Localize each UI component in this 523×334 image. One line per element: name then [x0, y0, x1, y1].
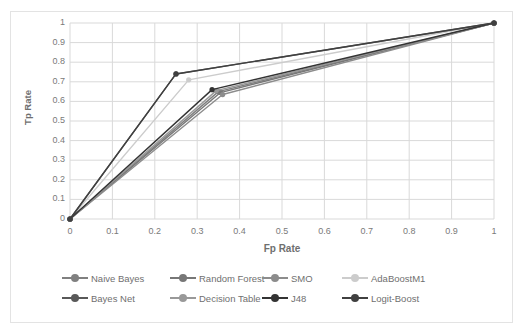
legend-marker-icon: [262, 293, 288, 303]
data-point-marker: [173, 71, 178, 76]
data-point-marker: [209, 87, 214, 92]
legend-marker-icon: [342, 273, 368, 283]
y-tick-label: 0.3: [43, 154, 65, 164]
x-tick-label: 0: [58, 226, 82, 236]
y-tick-label: 0.7: [43, 76, 65, 86]
y-tick-label: 0.1: [43, 193, 65, 203]
legend-item-decision-table[interactable]: Decision Table: [170, 293, 261, 304]
legend-item-j48[interactable]: J48: [262, 293, 306, 304]
legend-item-bayes-net[interactable]: Bayes Net: [62, 293, 135, 304]
legend-row: Naive BayesRandom ForestSMOAdaBoostM1: [62, 268, 482, 288]
y-axis-title: Tp Rate: [22, 78, 33, 138]
x-tick-label: 0.2: [143, 226, 167, 236]
y-tick-label: 0.5: [43, 115, 65, 125]
legend-item-smo[interactable]: SMO: [262, 273, 313, 284]
x-tick-label: 0.3: [185, 226, 209, 236]
data-point-marker: [491, 20, 496, 25]
x-tick-label: 0.7: [355, 226, 379, 236]
x-tick-label: 0.5: [270, 226, 294, 236]
legend-marker-icon: [170, 273, 196, 283]
legend-row: Bayes NetDecision TableJ48Logit-Boost: [62, 288, 482, 308]
x-tick-label: 0.6: [312, 226, 336, 236]
legend-item-label: Logit-Boost: [371, 293, 419, 304]
x-tick-label: 0.8: [397, 226, 421, 236]
x-axis-title: Fp Rate: [70, 243, 494, 254]
grid-lines: [70, 23, 494, 219]
legend-marker-icon: [170, 293, 196, 303]
y-tick-label: 0.6: [43, 95, 65, 105]
x-tick-label: 0.9: [440, 226, 464, 236]
legend-item-label: Naive Bayes: [91, 273, 144, 284]
x-tick-label: 1: [482, 226, 506, 236]
x-tick-label: 0.1: [100, 226, 124, 236]
legend-marker-icon: [62, 273, 88, 283]
data-point-marker: [186, 77, 191, 82]
legend-item-label: Random Forest: [199, 273, 264, 284]
legend-item-adaboostm1[interactable]: AdaBoostM1: [342, 273, 425, 284]
data-point-marker: [220, 92, 225, 97]
y-tick-label: 0.4: [43, 135, 65, 145]
y-tick-label: 0.8: [43, 56, 65, 66]
chart-legend: Naive BayesRandom ForestSMOAdaBoostM1Bay…: [62, 268, 482, 308]
y-tick-label: 0: [43, 213, 65, 223]
legend-marker-icon: [342, 293, 368, 303]
legend-item-label: J48: [291, 293, 306, 304]
legend-item-label: Bayes Net: [91, 293, 135, 304]
y-tick-label: 0.2: [43, 174, 65, 184]
legend-item-label: SMO: [291, 273, 313, 284]
data-point-marker: [67, 216, 72, 221]
legend-item-naive-bayes[interactable]: Naive Bayes: [62, 273, 144, 284]
legend-item-label: Decision Table: [199, 293, 261, 304]
legend-item-logit-boost[interactable]: Logit-Boost: [342, 293, 419, 304]
legend-item-random-forest[interactable]: Random Forest: [170, 273, 264, 284]
roc-chart-figure: 00.10.20.30.40.50.60.70.80.91 00.10.20.3…: [0, 0, 523, 334]
legend-marker-icon: [262, 273, 288, 283]
legend-marker-icon: [62, 293, 88, 303]
legend-item-label: AdaBoostM1: [371, 273, 425, 284]
y-tick-label: 1: [43, 17, 65, 27]
x-tick-label: 0.4: [228, 226, 252, 236]
y-tick-label: 0.9: [43, 37, 65, 47]
